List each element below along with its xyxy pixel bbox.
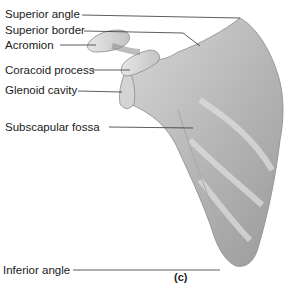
- label-acromion: Acromion: [5, 39, 54, 52]
- label-inferior-angle: Inferior angle: [3, 264, 70, 277]
- label-superior-angle: Superior angle: [5, 8, 80, 21]
- figure-caption: (c): [174, 271, 187, 283]
- label-glenoid-cavity: Glenoid cavity: [5, 84, 77, 97]
- label-coracoid-process: Coracoid process: [5, 64, 94, 77]
- label-subscapular-fossa: Subscapular fossa: [5, 121, 100, 134]
- label-superior-border: Superior border: [5, 24, 85, 37]
